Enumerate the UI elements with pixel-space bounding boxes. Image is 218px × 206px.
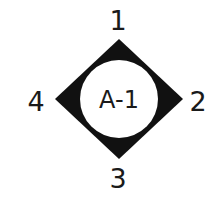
diagram: A-1 1 2 3 4	[0, 0, 218, 206]
point-label-top: 1	[103, 7, 133, 34]
point-label-bottom: 3	[103, 165, 133, 192]
point-label-left: 4	[21, 88, 51, 115]
point-label-right: 2	[183, 88, 213, 115]
center-label: A-1	[84, 88, 154, 112]
